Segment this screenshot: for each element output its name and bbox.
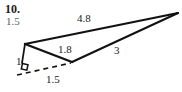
right-angle-mark-icon — [21, 64, 28, 71]
label-base-dashed: 1.5 — [46, 74, 60, 85]
problem-number: 10. — [5, 3, 20, 15]
label-middle-edge: 1.8 — [58, 44, 72, 55]
geometry-figure: 10. 1.5 4.8 1.8 3 1 1.5 — [0, 0, 182, 92]
label-top-edge: 4.8 — [77, 13, 91, 24]
edge-short-1 — [22, 44, 25, 63]
triangle-diagram-svg — [0, 0, 182, 92]
label-lower-right-edge: 3 — [114, 45, 120, 56]
label-extra-1point5: 1.5 — [6, 16, 20, 27]
label-short-side: 1 — [16, 56, 22, 67]
edge-top-4point8 — [25, 13, 178, 44]
